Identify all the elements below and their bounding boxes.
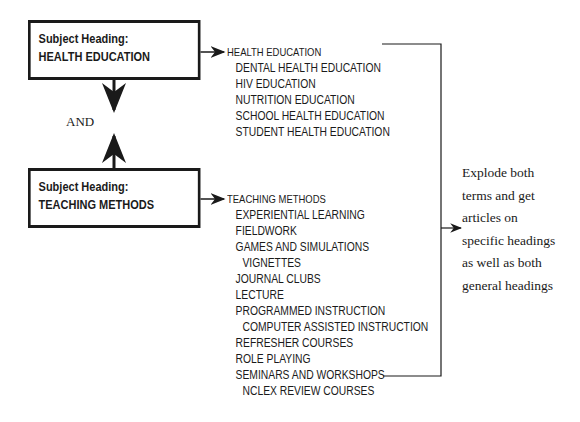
- teaching-methods-box: Subject Heading: TEACHING METHODS: [28, 168, 200, 228]
- health-education-tree: HEALTH EDUCATIONDENTAL HEALTH EDUCATIONH…: [227, 44, 390, 140]
- list-item: JOURNAL CLUBS: [227, 271, 428, 287]
- list-item: LECTURE: [227, 287, 428, 303]
- list-item: COMPUTER ASSISTED INSTRUCTION: [227, 319, 428, 335]
- list-item: REFRESHER COURSES: [227, 335, 428, 351]
- teaching-methods-tree: TEACHING METHODSEXPERIENTIAL LEARNINGFIE…: [227, 191, 428, 399]
- note-line: as well as both: [462, 252, 577, 275]
- box-term: TEACHING METHODS: [39, 196, 198, 214]
- note-line: specific headings: [462, 230, 577, 253]
- note-line: general headings: [462, 275, 577, 298]
- box-label: Subject Heading:: [39, 178, 198, 196]
- list-item: SCHOOL HEALTH EDUCATION: [227, 108, 390, 124]
- list-item: GAMES AND SIMULATIONS: [227, 239, 428, 255]
- list-item: SEMINARS AND WORKSHOPS: [227, 367, 428, 383]
- list-item: HEALTH EDUCATION: [227, 44, 390, 60]
- box-label: Subject Heading:: [39, 30, 198, 48]
- list-item: HIV EDUCATION: [227, 76, 390, 92]
- health-education-box: Subject Heading: HEALTH EDUCATION: [28, 20, 200, 80]
- list-item: NCLEX REVIEW COURSES: [227, 383, 428, 399]
- list-item: VIGNETTES: [227, 255, 428, 271]
- list-item: NUTRITION EDUCATION: [227, 92, 390, 108]
- list-item: STUDENT HEALTH EDUCATION: [227, 124, 390, 140]
- list-item: PROGRAMMED INSTRUCTION: [227, 303, 428, 319]
- list-item: TEACHING METHODS: [227, 191, 428, 207]
- list-item: FIELDWORK: [227, 223, 428, 239]
- list-item: ROLE PLAYING: [227, 351, 428, 367]
- note-line: terms and get: [462, 185, 577, 208]
- box-term: HEALTH EDUCATION: [39, 48, 198, 66]
- note-line: articles on: [462, 207, 577, 230]
- list-item: EXPERIENTIAL LEARNING: [227, 207, 428, 223]
- and-operator: AND: [66, 114, 94, 130]
- explode-note: Explode bothterms and getarticles onspec…: [462, 162, 577, 297]
- list-item: DENTAL HEALTH EDUCATION: [227, 60, 390, 76]
- note-line: Explode both: [462, 162, 577, 185]
